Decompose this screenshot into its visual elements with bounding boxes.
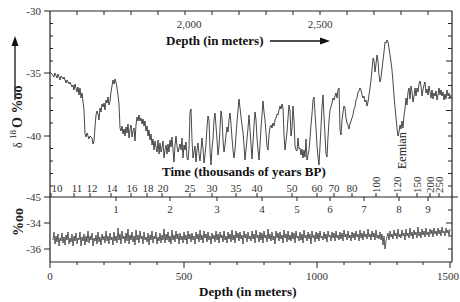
upper-top-ticks [77,11,428,15]
upper-ytick-label: -45 [26,191,41,203]
segment-label: 6 [327,203,333,215]
bottom-tick-label: 0 [47,270,53,282]
time-tick-label: 70 [329,182,341,194]
segment-label: 2 [167,203,173,215]
upper-left-ticks [44,11,53,186]
lower-ytick-label: -34 [26,217,41,229]
top-depth-tick-label: 2,000 [177,18,202,30]
top-depth-axis-title: Depth (in meters) [166,33,263,48]
bottom-tick-label: 1000 [306,270,329,282]
time-tick-label: 150 [411,176,423,193]
segment-label: 7 [361,203,367,215]
time-tick-label: 25 [185,182,197,194]
upper-ytick-label: -35 [26,67,41,79]
eemian-annotation: Eemian [395,132,409,169]
lower-y-ticks [44,210,452,249]
segment-label: 3 [214,203,220,215]
time-tick-label: 30 [207,182,219,194]
lower-ytick-label: -36 [26,243,41,255]
lower-ylabel: %oo [11,208,26,236]
segment-ticks [116,197,428,201]
segment-label: 5 [294,203,300,215]
upper-ytick-label: -40 [26,130,41,142]
time-tick-label: 10 [52,182,64,194]
time-tick-label: 16 [127,182,139,194]
time-tick-label: 20 [158,182,170,194]
upper-ylabel-main: O %oo [10,86,25,128]
superscript-18: 18 [8,130,18,140]
upper-ylabel: δ 18 O %oo [8,86,25,148]
bottom-tick-label: 500 [176,270,193,282]
time-tick-label: 250 [433,176,445,193]
time-tick-label: 11 [72,182,83,194]
top-depth-tick-label: 2,500 [308,18,333,30]
lower-panel: 1 2 3 4 5 6 7 8 9 -34 -36 %oo [11,197,460,299]
time-tick-label: 14 [107,182,119,194]
segment-label: 1 [113,203,119,215]
time-tick-label: 80 [347,182,359,194]
time-tick-label: 50 [287,182,299,194]
time-axis-title: Time (thousands of years BP) [162,164,326,179]
time-tick-label: 18 [143,182,155,194]
time-tick-label: 40 [252,182,264,194]
ice-core-figure: -30 -35 -40 -45 2,000 2,500 Depth (in me… [0,0,460,302]
upper-right-ticks [446,24,452,187]
bottom-depth-axis-title: Depth (in meters) [199,284,296,299]
time-tick-label: 120 [391,176,403,193]
segment-label: 9 [425,203,431,215]
segment-label: 8 [396,203,402,215]
upper-d18o-series [50,40,451,165]
segment-labels: 1 2 3 4 5 6 7 8 9 [113,203,431,215]
upper-panel: -30 -35 -40 -45 2,000 2,500 Depth (in me… [8,5,458,262]
delta-symbol: δ [11,142,25,148]
segment-label: 4 [259,203,265,215]
time-tick-label: 60 [312,182,324,194]
time-tick-label: 35 [231,182,243,194]
time-tick-label: 12 [87,182,98,194]
right-arrow-icon [270,38,330,45]
bottom-x-ticks [50,262,450,268]
lower-d18o-series [53,227,450,249]
bottom-tick-label: 1500 [437,270,460,282]
time-tick-label: 100 [370,176,382,193]
upper-ytick-label: -30 [26,5,41,17]
